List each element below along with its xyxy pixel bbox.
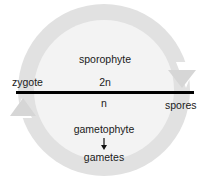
gametes-label: gametes xyxy=(84,151,124,163)
sporophyte-label: sporophyte xyxy=(79,53,131,65)
gametophyte-label: gametophyte xyxy=(74,123,135,135)
zygote-label: zygote xyxy=(12,76,43,88)
ploidy-divider xyxy=(16,91,194,94)
haploid-label: n xyxy=(101,97,107,109)
diploid-label: 2n xyxy=(99,76,111,88)
spores-label: spores xyxy=(165,99,197,111)
